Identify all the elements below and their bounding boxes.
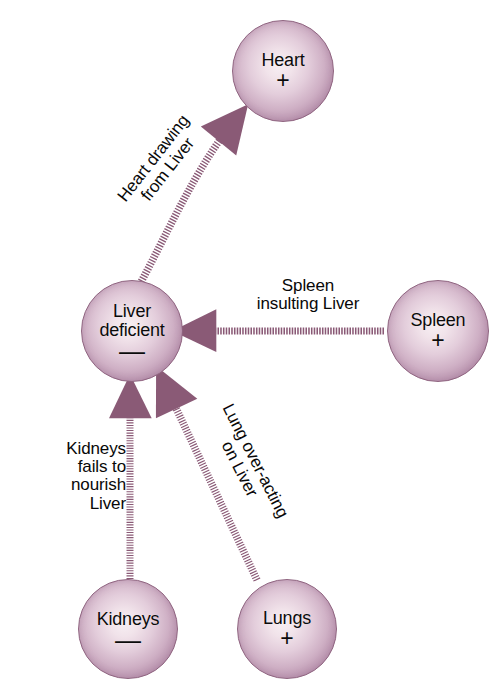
- node-spleen[interactable]: Spleen +: [387, 280, 489, 382]
- node-kidneys-sign: —: [115, 633, 141, 649]
- node-heart[interactable]: Heart +: [232, 20, 334, 122]
- node-kidneys[interactable]: Kidneys —: [78, 579, 178, 679]
- node-heart-sign: +: [276, 71, 289, 91]
- node-lungs[interactable]: Lungs +: [237, 579, 337, 679]
- diagram-canvas: Heart + Liver deficient — Spleen + Kidne…: [0, 0, 502, 687]
- edge-label-kidneys-fails: Kidneys fails to nourish Liver: [22, 440, 126, 513]
- edge-label-spleen-insulting: Spleen insulting Liver: [218, 277, 398, 313]
- node-liver-label: Liver deficient: [99, 302, 164, 339]
- node-lungs-sign: +: [280, 629, 293, 649]
- node-liver[interactable]: Liver deficient —: [81, 280, 183, 382]
- edge-label-lung-overacting: Lung over-acting on Liver: [196, 388, 298, 542]
- edge-label-heart-drawing: Heart drawing from Liver: [100, 94, 221, 235]
- node-liver-sign: —: [119, 344, 145, 360]
- node-spleen-sign: +: [431, 331, 444, 351]
